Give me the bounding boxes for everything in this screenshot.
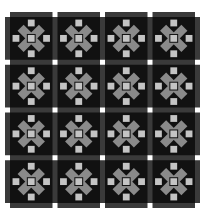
light-square [60,83,67,90]
light-square [13,178,20,185]
cornerstone [5,12,10,17]
light-square [123,98,130,105]
cornerstone [5,203,10,208]
light-square [108,130,115,137]
light-square [123,146,130,153]
light-square [123,67,130,74]
cornerstone [195,155,200,160]
light-square [155,83,162,90]
light-square [155,178,162,185]
light-square [123,50,130,57]
cornerstone [5,60,10,65]
light-square [186,83,193,90]
light-square [75,67,82,74]
light-square [170,146,177,153]
light-square [91,130,98,137]
light-square [186,130,193,137]
light-square [28,115,35,122]
cornerstone [195,60,200,65]
light-square [28,83,35,90]
quilt-svg [5,12,200,208]
light-square [75,20,82,27]
light-square [170,163,177,170]
light-square [43,35,50,42]
cornerstone [5,108,10,113]
light-square [91,83,98,90]
cornerstone [148,12,153,17]
light-square [28,194,35,201]
cornerstone [148,203,153,208]
light-square [138,35,145,42]
light-square [123,83,130,90]
light-square [138,130,145,137]
light-square [75,83,82,90]
cornerstone [100,12,105,17]
light-square [75,98,82,105]
light-square [91,178,98,185]
light-square [75,163,82,170]
light-square [28,50,35,57]
cornerstone [148,60,153,65]
cornerstone [148,155,153,160]
cornerstone [53,203,58,208]
light-square [28,130,35,137]
light-square [75,178,82,185]
cornerstone [195,108,200,113]
light-square [170,67,177,74]
light-square [60,35,67,42]
light-square [28,98,35,105]
light-square [91,35,98,42]
light-square [28,35,35,42]
cornerstone [5,155,10,160]
light-square [170,83,177,90]
light-square [186,35,193,42]
light-square [60,178,67,185]
light-square [155,130,162,137]
light-square [170,98,177,105]
light-square [28,163,35,170]
light-square [170,50,177,57]
light-square [186,178,193,185]
light-square [28,146,35,153]
light-square [43,83,50,90]
light-square [123,115,130,122]
light-square [13,83,20,90]
cornerstone [53,12,58,17]
light-square [75,194,82,201]
light-square [43,178,50,185]
light-square [170,35,177,42]
light-square [170,130,177,137]
light-square [13,35,20,42]
light-square [28,20,35,27]
light-square [138,83,145,90]
cornerstone [148,108,153,113]
light-square [75,130,82,137]
cornerstone [195,203,200,208]
light-square [123,194,130,201]
cornerstone [53,155,58,160]
light-square [75,50,82,57]
light-square [123,20,130,27]
light-square [108,178,115,185]
light-square [108,35,115,42]
light-square [123,35,130,42]
light-square [75,115,82,122]
light-square [170,194,177,201]
light-square [43,130,50,137]
light-square [170,20,177,27]
light-square [138,178,145,185]
light-square [123,130,130,137]
cornerstone [100,203,105,208]
light-square [123,163,130,170]
light-square [75,35,82,42]
quilt-pattern [5,12,200,208]
cornerstone [195,12,200,17]
cornerstone [53,108,58,113]
cornerstone [100,60,105,65]
light-square [28,67,35,74]
cornerstone [100,155,105,160]
light-square [75,146,82,153]
light-square [123,178,130,185]
light-square [170,115,177,122]
light-square [155,35,162,42]
